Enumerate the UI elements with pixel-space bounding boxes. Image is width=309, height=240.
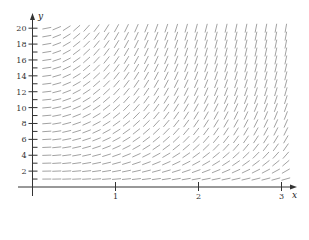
- y-tick-label: 16: [16, 56, 26, 65]
- slope-segment: [103, 81, 109, 87]
- slope-segment: [265, 40, 267, 49]
- slope-segment: [114, 80, 120, 87]
- slope-segment: [275, 48, 277, 57]
- slope-segment: [264, 127, 268, 135]
- slope-segment: [194, 88, 198, 96]
- slope-segment: [275, 64, 277, 73]
- slope-segment: [164, 104, 169, 111]
- slope-segment: [82, 171, 91, 172]
- slope-segment: [62, 122, 71, 124]
- slope-segment: [275, 32, 277, 41]
- slope-segment: [215, 48, 217, 57]
- slope-segment: [52, 107, 61, 109]
- slope-segment: [52, 147, 61, 148]
- slope-segment: [42, 107, 51, 108]
- slope-segment: [94, 33, 100, 40]
- slope-segment: [195, 64, 198, 72]
- slope-segment: [284, 95, 287, 104]
- slope-segment: [52, 123, 61, 125]
- slope-segment: [135, 32, 139, 40]
- slope-segment: [144, 56, 148, 64]
- slope-segment: [113, 121, 120, 126]
- slope-segment: [162, 178, 171, 179]
- slope-segment: [195, 32, 198, 41]
- slope-segment: [165, 48, 168, 56]
- slope-segment: [194, 80, 198, 88]
- slope-segment: [134, 96, 140, 103]
- slope-segment: [62, 139, 71, 141]
- slope-segment: [275, 56, 277, 65]
- slope-segment: [92, 162, 101, 164]
- slope-segment: [114, 32, 119, 40]
- slope-segment: [164, 112, 169, 119]
- slope-segment: [63, 42, 71, 47]
- slope-segment: [165, 40, 168, 48]
- slope-segment: [154, 112, 160, 119]
- slope-segment: [73, 33, 80, 39]
- slope-segment: [234, 120, 238, 128]
- slope-segment: [245, 72, 248, 81]
- slope-segment: [265, 79, 268, 88]
- slope-segment: [215, 72, 218, 81]
- slope-segment: [214, 112, 218, 120]
- slope-segment: [194, 112, 199, 120]
- slope-segment: [42, 75, 51, 76]
- slope-segment: [114, 48, 119, 56]
- slope-segment: [103, 105, 110, 111]
- slope-segment: [62, 130, 71, 132]
- slope-segment: [282, 178, 291, 180]
- slope-segment: [132, 179, 141, 180]
- slope-segment: [274, 127, 278, 135]
- slope-segment: [255, 87, 258, 96]
- slope-segment: [204, 112, 208, 120]
- slope-segment: [212, 161, 220, 166]
- slope-segment: [242, 178, 251, 180]
- slope-segment: [243, 152, 250, 158]
- slope-segment: [274, 111, 277, 119]
- slope-segment: [204, 88, 208, 96]
- slope-segment: [62, 114, 71, 117]
- slope-segment: [93, 73, 100, 79]
- slope-segment: [52, 163, 61, 164]
- slope-segment: [174, 80, 178, 88]
- slope-segment: [153, 128, 160, 134]
- slope-segment: [255, 79, 258, 88]
- slope-segment: [172, 161, 180, 165]
- slope-segment: [245, 40, 247, 49]
- slope-segment: [275, 79, 277, 88]
- slope-segment: [73, 82, 81, 86]
- slope-segment: [52, 139, 61, 140]
- slope-segment: [263, 144, 268, 151]
- slope-segment: [92, 146, 101, 149]
- x-ticks: 123: [113, 182, 284, 201]
- slope-segment: [163, 128, 169, 134]
- slope-segment: [244, 128, 249, 136]
- slope-segment: [285, 87, 288, 96]
- slope-segment: [114, 64, 119, 71]
- slope-segment: [154, 88, 159, 96]
- slope-segment: [62, 98, 70, 101]
- slope-segment: [234, 128, 239, 136]
- slope-segment: [164, 80, 168, 88]
- slope-segment: [124, 72, 129, 79]
- slope-segment: [103, 113, 110, 118]
- slope-segment: [152, 178, 161, 179]
- slope-segment: [42, 131, 51, 132]
- slope-segment: [142, 153, 150, 157]
- slope-segment: [194, 104, 198, 112]
- slope-segment: [122, 145, 130, 149]
- slope-segment: [185, 40, 188, 49]
- slope-segment: [235, 24, 237, 33]
- slope-segment: [233, 136, 238, 143]
- slope-segment: [122, 179, 131, 180]
- slope-segment: [63, 26, 71, 31]
- slope-segment: [42, 35, 51, 37]
- slope-segment: [144, 80, 149, 88]
- slope-segment: [134, 72, 139, 80]
- slope-segment: [235, 64, 238, 73]
- slope-segment: [72, 146, 81, 148]
- slope-segment: [174, 120, 180, 127]
- slope-segment: [212, 169, 220, 172]
- slope-segment: [122, 162, 131, 165]
- slope-segment: [265, 48, 267, 57]
